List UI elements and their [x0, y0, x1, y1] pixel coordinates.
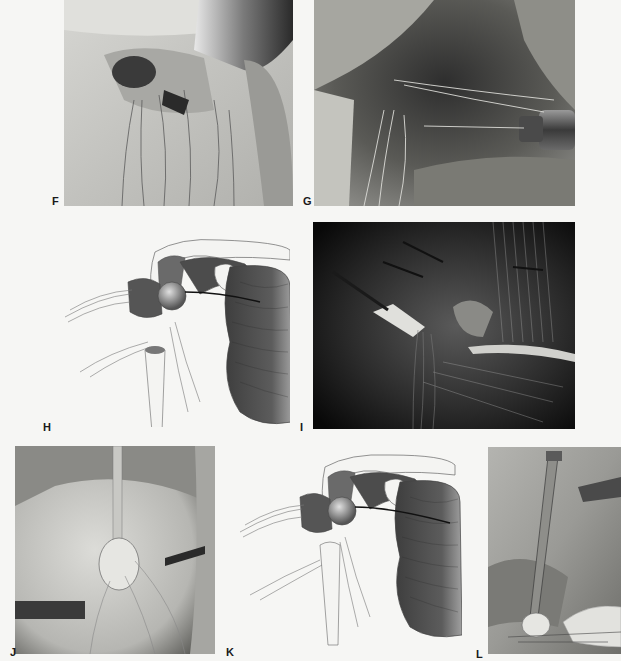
- panel-label-i: I: [300, 422, 303, 433]
- panel-j-photo: [15, 446, 215, 654]
- panel-label-g: G: [303, 196, 312, 207]
- panel-k-illustration: [240, 445, 462, 653]
- panel-label-f: F: [52, 196, 59, 207]
- panel-l-photo: [488, 447, 621, 654]
- panel-label-j: J: [10, 647, 16, 658]
- panel-label-l: L: [476, 649, 483, 660]
- panel-i-photo: [313, 222, 575, 429]
- panel-h-illustration: [60, 222, 290, 427]
- panel-f-photo: [64, 0, 293, 206]
- panel-label-k: K: [226, 647, 234, 658]
- panel-g-photo: [314, 0, 575, 206]
- panel-label-h: H: [43, 422, 51, 433]
